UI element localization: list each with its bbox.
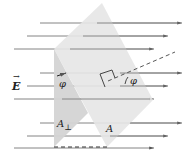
flux-diagram [0, 0, 193, 162]
angle-label-right: φ [130, 76, 137, 86]
angle-label-left: φ [59, 79, 66, 89]
area-label: A [106, 124, 113, 134]
area-perp-label: A⊥ [57, 119, 72, 132]
field-label: → E [12, 81, 20, 92]
